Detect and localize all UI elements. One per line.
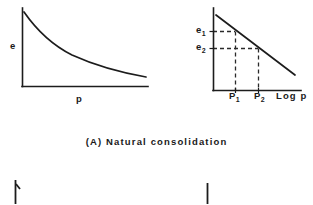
right-panel-group bbox=[210, 8, 302, 93]
right-x-axis-tick-label-p1: P1 bbox=[229, 91, 240, 103]
p2-base: P bbox=[254, 90, 261, 101]
e2-subscript: 2 bbox=[202, 47, 206, 54]
left-bottom-axis-stub-arrow bbox=[16, 184, 20, 189]
left-panel-group bbox=[22, 8, 148, 87]
right-y-axis-label-e2: e2 bbox=[196, 42, 206, 54]
p1-base: P bbox=[229, 90, 236, 101]
right-semilog-line bbox=[216, 15, 295, 75]
figure-container: e p e1 e2 P1 P2 Log p (A) Natural consol… bbox=[0, 0, 313, 205]
p2-subscript: 2 bbox=[261, 96, 265, 103]
left-x-axis-label: p bbox=[76, 94, 82, 104]
e1-subscript: 1 bbox=[202, 30, 206, 37]
right-x-axis-tick-label-p2: P2 bbox=[254, 91, 265, 103]
p1-subscript: 1 bbox=[236, 96, 240, 103]
right-x-axis-label: Log p bbox=[276, 91, 307, 101]
figure-caption: (A) Natural consolidation bbox=[0, 136, 313, 147]
bottom-partial-marks-group bbox=[16, 180, 208, 204]
left-consolidation-curve bbox=[24, 12, 146, 77]
right-y-axis-label-e1: e1 bbox=[196, 25, 206, 37]
figure-vector-layer bbox=[0, 0, 313, 205]
left-y-axis-label: e bbox=[10, 41, 16, 51]
